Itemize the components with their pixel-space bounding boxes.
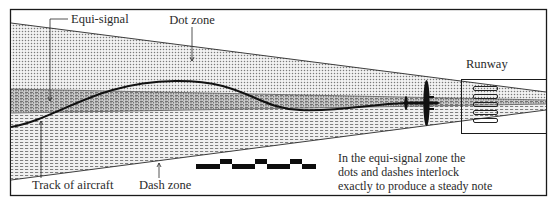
label-runway: Runway bbox=[466, 57, 508, 71]
note-line-2: dots and dashes interlock bbox=[338, 165, 459, 179]
radio-beam-diagram: Equi-signal Dot zone Runway Track of air… bbox=[0, 0, 557, 205]
label-track-of-aircraft: Track of aircraft bbox=[32, 178, 114, 192]
label-equi-signal: Equi-signal bbox=[71, 12, 129, 26]
label-dot-zone: Dot zone bbox=[169, 13, 215, 27]
label-dash-zone: Dash zone bbox=[139, 178, 192, 192]
note-line-1: In the equi-signal zone the bbox=[338, 151, 465, 165]
note-line-3: exactly to produce a steady note bbox=[338, 179, 492, 193]
